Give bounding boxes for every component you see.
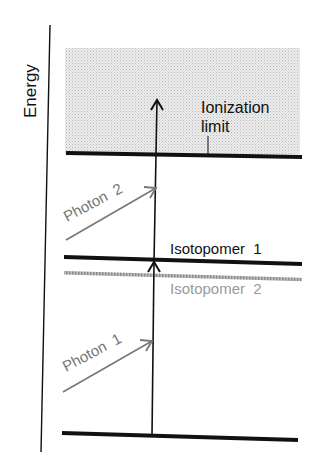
energy-axis	[41, 25, 50, 452]
photon-2-arrowhead-icon	[144, 187, 156, 198]
ionization-limit-label: Ionization	[201, 99, 270, 116]
photon-1-arrowhead-icon	[140, 340, 152, 351]
isotopomer-2-label: Isotopomer 2	[170, 280, 262, 297]
excitation-arrow-lower	[152, 262, 154, 436]
ionization-limit-label-line2: limit	[201, 118, 230, 135]
energy-axis-label: Energy	[21, 64, 40, 118]
photon-2-label: Photon 2	[60, 179, 125, 224]
isotopomer-1-label: Isotopomer 1	[170, 240, 262, 257]
ground-state-line	[62, 433, 298, 440]
isotopomer-1-line	[64, 257, 302, 264]
energy-level-diagram: Energy Ionization limit Isotopomer 1 Iso…	[0, 0, 315, 471]
photon-1-label: Photon 1	[59, 329, 124, 374]
